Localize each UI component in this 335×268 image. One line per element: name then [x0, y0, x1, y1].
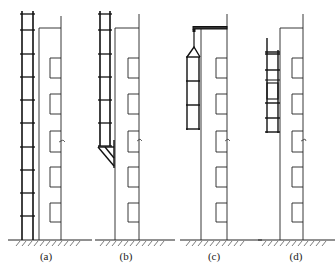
panel-label-a: (a) — [40, 250, 53, 263]
panel-d: (d) — [258, 14, 335, 263]
ground-line — [180, 240, 262, 246]
ground-line — [258, 240, 335, 246]
building-facade — [280, 14, 306, 240]
cantilever-ladder-scaffold — [98, 11, 112, 146]
ground-line — [95, 240, 175, 246]
panel-label-c: (c) — [208, 250, 221, 263]
suspended-cage — [186, 47, 200, 130]
panel-label-d: (d) — [290, 250, 303, 263]
building-facade — [201, 14, 230, 240]
climbing-ladder-frame — [265, 38, 280, 133]
building-facade — [39, 16, 65, 240]
panel-c: (c) — [180, 14, 262, 263]
building-scaffold-diagram: (a) — [0, 0, 335, 268]
panel-b: (b) — [95, 11, 175, 263]
panel-label-b: (b) — [120, 250, 133, 263]
panel-a: (a) — [8, 11, 92, 263]
ladder-scaffold — [20, 11, 35, 240]
roof-outrigger — [193, 27, 228, 49]
ground-line — [8, 240, 92, 246]
building-facade — [115, 14, 142, 240]
